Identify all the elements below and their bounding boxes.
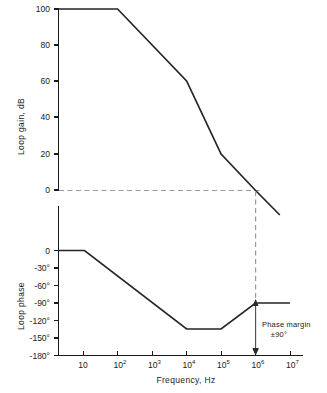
phase-tick-label-m60: -60° [34,281,50,291]
frequency-axis-title: Frequency, Hz [156,375,215,385]
gain-tick-label-0: 0 [45,185,50,195]
phase-margin-label-line2: ±90° [271,330,287,339]
phase-tick-label-m150: -150° [30,333,50,343]
loop-gain-curve [59,9,280,215]
gain-tick-label-100: 100 [36,4,50,14]
gain-y-ticks [54,9,59,190]
bode-plot-canvas: 100 80 60 40 20 0 Loop gain, dB [0,0,327,393]
phase-margin-label-line1: Phase margin [262,320,311,329]
phase-tick-label-m90: -90° [34,298,50,308]
freq-label-1e2: 102 [114,359,127,370]
freq-label-1e7: 107 [286,359,299,370]
phase-tick-label-m120: -120° [30,316,50,326]
phase-margin-annotation-group: Phase margin ±90° [252,191,310,356]
gain-tick-label-40: 40 [41,112,51,122]
gain-tick-label-60: 60 [41,76,51,86]
phase-tick-label-m180: -180° [30,351,50,361]
crossover-frequency-marker-icon [252,349,258,356]
phase-y-ticks [54,251,59,356]
freq-label-1e5: 105 [217,359,230,370]
phase-tick-label-0: 0 [45,246,50,256]
phase-axis-title: Loop phase [16,282,26,330]
phase-panel: 0 -30° -60° -90° -120° -150° -180° Loop … [16,206,303,386]
freq-label-1e6: 106 [252,359,265,370]
gain-tick-label-80: 80 [41,40,51,50]
bode-plot-figure: 100 80 60 40 20 0 Loop gain, dB [0,0,327,393]
freq-label-10: 10 [78,360,88,370]
frequency-x-tick-labels: 10 102 103 104 105 106 107 [78,359,299,370]
freq-label-1e4: 104 [183,359,196,370]
gain-panel: 100 80 60 40 20 0 Loop gain, dB [16,4,280,215]
gain-tick-label-20: 20 [41,149,51,159]
frequency-x-ticks [83,351,290,356]
freq-label-1e3: 103 [148,359,161,370]
phase-tick-label-m30: -30° [34,263,50,273]
gain-axis-title: Loop gain, dB [16,98,26,155]
